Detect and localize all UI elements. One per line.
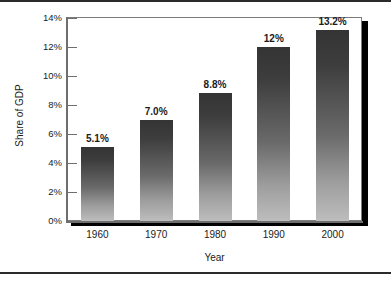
y-axis-tick-label: 2% [22,187,62,197]
x-axis-tick-label-2000: 2000 [303,229,363,240]
bar-1980 [199,93,232,221]
bar-1960 [81,147,114,221]
bar-1970 [140,120,173,222]
bar-value-label-1970: 7.0% [126,106,186,117]
y-axis-tick [68,163,77,164]
y-axis-tick-label: 12% [22,42,62,52]
x-axis-tick-label-1990: 1990 [244,229,304,240]
y-axis-tick-label: 4% [22,158,62,168]
bar-value-label-1990: 12% [244,33,304,44]
bar-chart-figure: 0%2%4%6%8%10%12%14% Share of GDP 5.1%7.0… [0,2,391,272]
y-axis-tick-label: 8% [22,100,62,110]
y-axis-tick-label: 10% [22,71,62,81]
x-axis-tick-label-1980: 1980 [185,229,245,240]
bar-2000 [316,30,349,221]
x-axis-tick-label-1970: 1970 [126,229,186,240]
bar-value-label-1980: 8.8% [185,79,245,90]
y-axis-tick-labels: 0%2%4%6%8%10%12%14% [18,2,62,272]
y-axis-title: Share of GDP [14,61,25,171]
y-axis-tick-label: 14% [22,13,62,23]
bar-1990 [257,47,290,221]
y-axis-tick-label: 6% [22,129,62,139]
x-axis-line [66,221,363,223]
page-rule-bottom [0,272,391,274]
y-axis-tick [68,47,77,48]
y-axis-tick-label: 0% [22,216,62,226]
x-axis-title: Year [66,252,363,263]
y-axis-tick [68,76,77,77]
bar-value-label-2000: 13.2% [303,16,363,27]
y-axis-tick [68,105,77,106]
y-axis-tick [68,18,77,19]
y-axis-tick [68,192,77,193]
bar-value-label-1960: 5.1% [67,133,127,144]
x-axis-tick-label-1960: 1960 [67,229,127,240]
